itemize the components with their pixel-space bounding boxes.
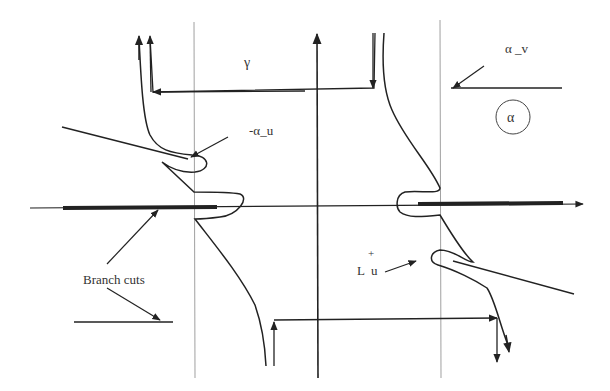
right-deformed-contour xyxy=(383,33,508,345)
branch-cuts-label: Branch cuts xyxy=(83,272,145,287)
right-curve-bottom-arrow xyxy=(506,335,509,352)
branch-cuts-pointer-lower xyxy=(107,288,160,320)
lower-contour-right-arrow xyxy=(274,318,497,320)
L-u-plus-label: + xyxy=(368,247,374,259)
gamma-label: γ xyxy=(243,55,250,70)
L-u-pointer xyxy=(385,261,416,272)
branch-cut-right xyxy=(418,203,563,204)
minus-alpha-u-pointer xyxy=(191,137,228,157)
minus-alpha-u-label: -α_u xyxy=(249,123,274,138)
contour-gamma-upper xyxy=(150,33,375,92)
alpha-v-pointer xyxy=(453,66,484,88)
contour-diagram: γ α _v α -α_u Branch cuts + L u xyxy=(0,0,610,391)
left-deformed-contour xyxy=(139,38,266,366)
alpha-circled-label: α xyxy=(507,110,515,125)
upper-left-oblique-line xyxy=(62,127,188,159)
L-u-label: L u xyxy=(357,263,378,278)
alpha-v-label: α _v xyxy=(505,41,529,56)
branch-cuts-pointer-upper xyxy=(107,210,158,264)
right-vertical-guide xyxy=(440,20,441,378)
imaginary-axis xyxy=(317,34,318,378)
branch-cut-left xyxy=(63,207,217,208)
lower-right-oblique-line xyxy=(453,261,574,294)
left-vertical-guide xyxy=(194,22,195,378)
